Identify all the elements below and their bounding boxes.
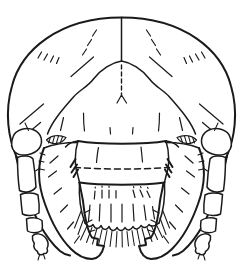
insect-head-figure [0, 0, 243, 274]
antenna-segment-4 [27, 218, 43, 233]
antenna-pedicel [18, 156, 37, 192]
insect-head-illustration [0, 0, 243, 274]
antenna-scape [12, 129, 42, 155]
antenna-segment-3 [21, 193, 40, 216]
